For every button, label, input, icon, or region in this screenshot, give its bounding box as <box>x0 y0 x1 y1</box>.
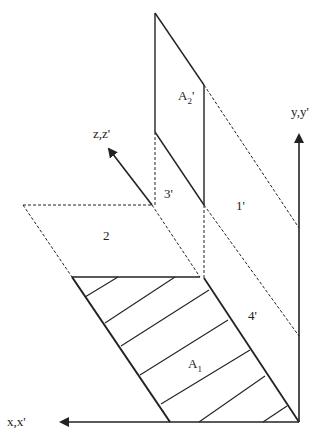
label-a2-prime: A2' <box>178 88 194 106</box>
label-a1: A1 <box>188 356 202 374</box>
label-axis-z: z,z' <box>93 126 110 142</box>
label-axis-y: y,y' <box>291 104 309 120</box>
panel-a2-prime <box>155 13 204 205</box>
label-region-3-prime: 3' <box>164 186 173 202</box>
label-region-1-prime: 1' <box>236 198 245 214</box>
hatch-lines <box>85 277 287 422</box>
label-axis-x: x,x' <box>7 414 26 430</box>
label-region-4-prime: 4' <box>248 308 257 324</box>
dashed-outlines <box>23 85 299 336</box>
diagram-canvas <box>0 0 331 444</box>
label-region-2: 2 <box>103 228 110 244</box>
panel-a1 <box>72 277 299 422</box>
z-axis <box>109 149 152 205</box>
